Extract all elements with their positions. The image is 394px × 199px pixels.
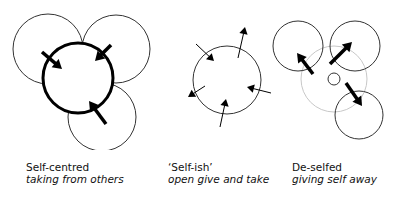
panel-de-selfed — [273, 21, 383, 139]
caption-subtitle: open give and take — [168, 173, 269, 185]
selfhood-diagram — [0, 0, 394, 150]
caption-subtitle: giving self away — [292, 173, 377, 185]
caption-de-selfed: De-selfed giving self away — [292, 161, 377, 185]
arrow-inward-bottom-icon — [220, 99, 229, 127]
caption-title: ‘Self-ish’ — [168, 161, 269, 173]
caption-title: Self-centred — [26, 161, 124, 173]
caption-title: De-selfed — [292, 161, 377, 173]
arrow-outward-bottom-icon — [346, 83, 362, 106]
arrow-inward-top-left-icon — [196, 44, 214, 61]
shrunken-self-circle — [328, 73, 340, 85]
arrow-outward-top-icon — [238, 27, 248, 58]
caption-self-centred: Self-centred taking from others — [26, 161, 124, 185]
panel-self-ish — [188, 27, 271, 127]
other-circle-top-left — [273, 21, 323, 71]
arrow-outward-top-right-icon — [330, 42, 352, 64]
caption-self-ish: ‘Self-ish’ open give and take — [168, 161, 269, 185]
caption-subtitle: taking from others — [26, 173, 124, 185]
panel-self-centred — [13, 14, 150, 150]
